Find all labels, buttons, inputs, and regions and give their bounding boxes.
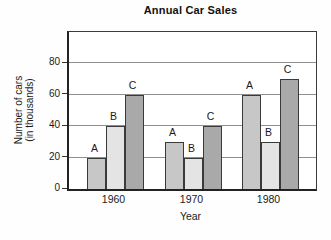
y-tick-mark-80: [62, 62, 67, 63]
bar-1970-B: [184, 158, 203, 189]
bar-label-1960-B: B: [104, 110, 124, 122]
y-tick-mark-20: [62, 156, 67, 157]
bar-1980-B: [261, 142, 280, 189]
bar-1970-C: [203, 126, 222, 189]
bar-1960-B: [106, 126, 125, 189]
y-tick-label-80: 80: [34, 56, 60, 67]
bar-1980-C: [280, 79, 299, 189]
y-tick-label-60: 60: [34, 88, 60, 99]
bar-1960-A: [87, 158, 106, 189]
gridline-60: [69, 94, 316, 95]
chart-title: Annual Car Sales: [67, 4, 314, 16]
x-axis-title: Year: [67, 210, 314, 222]
y-tick-mark-60: [62, 93, 67, 94]
x-tick-label-1980: 1980: [244, 193, 294, 205]
y-tick-mark-40: [62, 125, 67, 126]
bar-label-1980-B: B: [259, 126, 279, 138]
gridline-80: [69, 62, 316, 63]
bar-label-1970-C: C: [201, 110, 221, 122]
y-tick-mark-0: [62, 188, 67, 189]
y-tick-label-40: 40: [34, 119, 60, 130]
y-tick-label-0: 0: [34, 182, 60, 193]
bar-label-1960-A: A: [85, 142, 105, 154]
bar-label-1980-C: C: [278, 63, 298, 75]
bar-label-1970-A: A: [163, 126, 183, 138]
bar-1980-A: [242, 95, 261, 189]
x-tick-label-1970: 1970: [167, 193, 217, 205]
y-axis-title-line1: Number of cars: [13, 40, 24, 180]
bar-1960-C: [125, 95, 144, 189]
bar-1970-A: [165, 142, 184, 189]
annual-car-sales-chart: Annual Car Sales Number of cars (in thou…: [0, 0, 331, 240]
bar-label-1980-A: A: [240, 79, 260, 91]
bar-label-1960-C: C: [123, 79, 143, 91]
bar-label-1970-B: B: [182, 142, 202, 154]
x-tick-label-1960: 1960: [89, 193, 139, 205]
y-tick-label-20: 20: [34, 151, 60, 162]
